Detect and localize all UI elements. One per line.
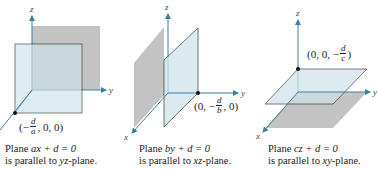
fraction: d b	[216, 96, 223, 115]
intercept-point	[296, 67, 300, 71]
point-label-yz: (− d a , 0, 0)	[19, 117, 63, 136]
y-axis-label: y	[373, 87, 377, 97]
label-suffix: , 0, 0)	[37, 121, 63, 133]
caption-yz: Plane ax + d = 0 is parallel to yz-plane…	[5, 143, 97, 167]
y-axis-label: y	[109, 85, 113, 95]
label-prefix: (0, −	[194, 100, 215, 112]
intercept-point	[196, 91, 200, 95]
label-suffix: , 0)	[223, 100, 238, 112]
panel-xz-plane	[132, 14, 238, 133]
intercept-point	[13, 111, 17, 115]
plane-ax-d	[15, 44, 82, 113]
fraction: d c	[340, 44, 347, 63]
z-axis-label: z	[296, 8, 300, 18]
caption-xz: Plane by + d = 0 is parallel to xz-plane…	[139, 143, 231, 167]
xz-coordinate-plane	[134, 27, 164, 128]
z-axis-label: z	[30, 4, 34, 14]
point-label-xz: (0, − d b , 0)	[194, 96, 238, 115]
label-suffix: )	[347, 48, 351, 60]
point-label-xy: (0, 0, − d c )	[307, 44, 351, 63]
label-prefix: (0, 0, −	[307, 48, 339, 60]
z-axis-label: z	[165, 2, 169, 12]
fraction: d a	[30, 117, 37, 136]
x-axis-label: x	[256, 131, 260, 141]
label-prefix: (−	[19, 121, 29, 133]
x-axis-label: x	[124, 132, 128, 142]
caption-xy: Plane cz + d = 0 is parallel to xy-plane…	[268, 143, 361, 167]
plane-by-d	[164, 28, 198, 127]
panel-yz-plane	[0, 16, 106, 130]
y-axis-label: y	[241, 88, 245, 98]
panel-xy-plane	[263, 20, 370, 132]
